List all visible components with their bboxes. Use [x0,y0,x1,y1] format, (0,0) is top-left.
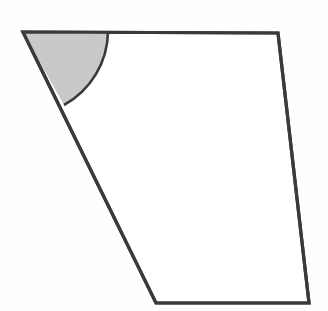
geometry-figure [0,0,328,311]
figure-canvas [0,0,328,311]
